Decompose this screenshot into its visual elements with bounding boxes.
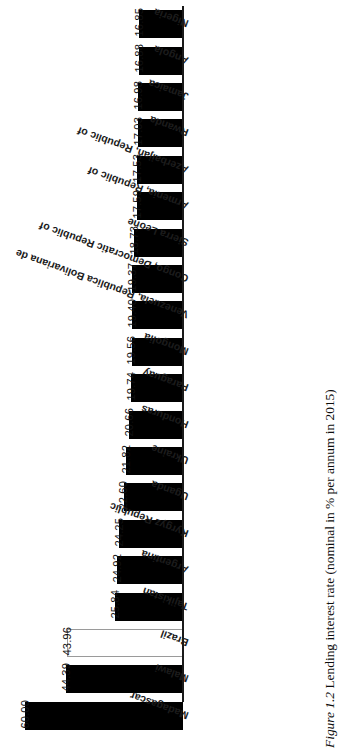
value-label: 20.66 — [124, 408, 135, 437]
category-axis-line — [182, 6, 184, 702]
value-label: 19.74 — [126, 372, 137, 401]
value-label: 16.98 — [133, 81, 144, 110]
value-label: 43.96 — [62, 627, 73, 656]
value-label: 24.25 — [114, 518, 125, 547]
value-label: 44.39 — [61, 663, 72, 692]
value-label: 17.03 — [133, 117, 144, 146]
figure-container: 16.8516.8816.9817.0317.5317.5918.7319.37… — [0, 0, 347, 754]
value-label: 60.00 — [20, 700, 31, 729]
value-label: 24.92 — [112, 554, 123, 583]
figure-caption-text: Lending interest rate (nominal in % per … — [322, 389, 337, 688]
value-label: 16.88 — [134, 44, 145, 73]
value-label: 21.82 — [121, 445, 132, 474]
value-label: 16.85 — [134, 8, 145, 37]
chart-plot-area: 16.8516.8816.9817.0317.5317.5918.7319.37… — [0, 0, 300, 754]
bar-row — [0, 625, 183, 661]
figure-caption: Figure 1.2 Lending interest rate (nomina… — [323, 389, 336, 748]
figure-caption-number: Figure 1.2 — [322, 692, 337, 748]
value-label: 19.56 — [126, 336, 137, 365]
value-label: 25.84 — [110, 590, 121, 619]
